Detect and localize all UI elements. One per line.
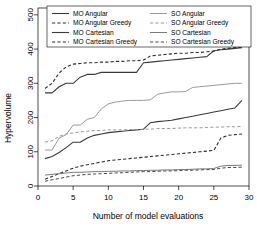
legend-label: MO Angular Greedy (73, 19, 132, 27)
y-tick-label: 0 (26, 183, 35, 188)
hypervolume-line-chart: 0100200300400500 051015202530 MO Angular… (0, 0, 257, 227)
chart-legend: MO AngularMO Angular GreedyMO CartesianM… (47, 6, 251, 47)
x-tick-label: 25 (209, 193, 218, 202)
chart-figure: 0100200300400500 051015202530 MO Angular… (0, 0, 257, 227)
x-tick-label: 0 (36, 193, 41, 202)
legend-label: MO Cartesian Greedy (73, 38, 138, 46)
y-tick-label: 400 (26, 42, 35, 56)
legend-label: MO Angular (73, 10, 109, 18)
x-tick-label: 15 (139, 193, 148, 202)
y-axis-title: Hypervolume (3, 93, 13, 143)
legend-label: SO Cartesian (171, 29, 211, 36)
y-tick-label: 100 (26, 145, 35, 159)
legend-label: SO Angular Greedy (171, 19, 229, 27)
x-tick-label: 30 (245, 193, 254, 202)
x-tick-label: 20 (174, 193, 183, 202)
x-tick-label: 10 (104, 193, 113, 202)
legend-label: SO Cartesian Greedy (171, 38, 235, 46)
legend-label: SO Angular (171, 10, 206, 18)
y-tick-label: 500 (26, 8, 35, 22)
x-tick-label: 5 (71, 193, 76, 202)
y-tick-label: 200 (26, 110, 35, 124)
legend-label: MO Cartesian (73, 29, 114, 36)
x-axis-title: Number of model evaluations (93, 211, 204, 221)
y-tick-label: 300 (26, 76, 35, 90)
